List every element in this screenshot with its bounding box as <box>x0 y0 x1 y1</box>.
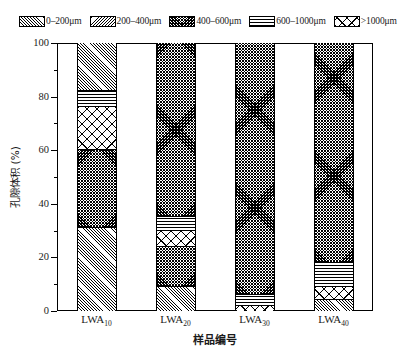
legend-label: 600–1000μm <box>276 16 325 27</box>
y-tick-major <box>51 311 57 312</box>
legend-swatch <box>169 16 195 27</box>
y-tick-major <box>51 150 57 151</box>
legend-swatch <box>334 16 360 27</box>
x-tick-label-subscript: 20 <box>183 319 191 328</box>
legend-label: 400–600μm <box>196 16 241 27</box>
y-tick-major <box>51 43 57 44</box>
x-tick-label-subscript: 40 <box>341 319 349 328</box>
y-tick-label: 100 <box>33 38 49 48</box>
y-tick-major <box>51 257 57 258</box>
x-tick-label: LWA40 <box>294 313 374 328</box>
x-tick-label-subscript: 30 <box>262 319 270 328</box>
y-tick-minor <box>54 231 58 232</box>
y-tick-major <box>51 204 57 205</box>
y-tick-major <box>51 97 57 98</box>
legend-item: >1000μm <box>334 16 402 27</box>
x-tick-label: LWA30 <box>215 313 295 328</box>
y-tick-label: 60 <box>39 145 50 155</box>
x-tick-label-base: LWA <box>160 313 183 325</box>
x-tick-label-base: LWA <box>239 313 262 325</box>
legend-swatch <box>249 16 275 27</box>
x-tick-label: LWA20 <box>136 313 216 328</box>
y-axis-ticks: 020406080100 <box>57 43 373 311</box>
y-tick-minor <box>54 123 58 124</box>
x-axis-labels: LWA10LWA20LWA30LWA40 <box>57 313 373 329</box>
legend-label: 200–400μm <box>117 16 162 27</box>
legend-item: 0–200μm <box>19 16 90 27</box>
legend-item: 200–400μm <box>90 16 170 27</box>
legend-label: >1000μm <box>361 16 397 27</box>
x-axis-title: 样品编号 <box>57 331 373 347</box>
y-axis-title: 孔隙体积 (%) <box>6 43 22 311</box>
x-tick-label-subscript: 10 <box>104 319 112 328</box>
y-tick-label: 40 <box>39 199 50 209</box>
x-tick-label: LWA10 <box>57 313 137 328</box>
y-tick-minor <box>54 284 58 285</box>
x-tick-label-base: LWA <box>81 313 104 325</box>
y-tick-label: 0 <box>44 306 49 316</box>
x-tick-label-base: LWA <box>318 313 341 325</box>
y-tick-label: 80 <box>39 92 50 102</box>
y-tick-minor <box>54 70 58 71</box>
legend-item: 600–1000μm <box>249 16 333 27</box>
legend-swatch <box>19 16 45 27</box>
y-tick-minor <box>54 177 58 178</box>
legend-item: 400–600μm <box>169 16 249 27</box>
chart-legend: 0–200μm200–400μm400–600μm600–1000μm>1000… <box>19 14 373 28</box>
legend-swatch <box>90 16 116 27</box>
legend-label: 0–200μm <box>46 16 82 27</box>
y-tick-label: 20 <box>39 252 50 262</box>
